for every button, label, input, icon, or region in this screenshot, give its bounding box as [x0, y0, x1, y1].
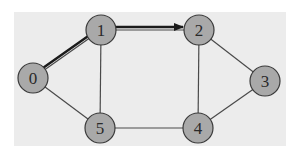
- node-label: 0: [29, 69, 38, 88]
- node-0: 0: [18, 63, 48, 93]
- edges-layer: [33, 30, 265, 128]
- node-2: 2: [184, 15, 214, 45]
- nodes-layer: 012345: [18, 15, 280, 143]
- node-5: 5: [85, 113, 115, 143]
- node-label: 3: [261, 72, 270, 91]
- node-label: 2: [195, 21, 204, 40]
- node-label: 5: [96, 119, 105, 138]
- node-4: 4: [183, 113, 213, 143]
- graph-canvas: 012345: [0, 0, 300, 155]
- node-label: 4: [194, 119, 203, 138]
- node-3: 3: [250, 66, 280, 96]
- node-label: 1: [97, 21, 106, 40]
- node-1: 1: [86, 15, 116, 45]
